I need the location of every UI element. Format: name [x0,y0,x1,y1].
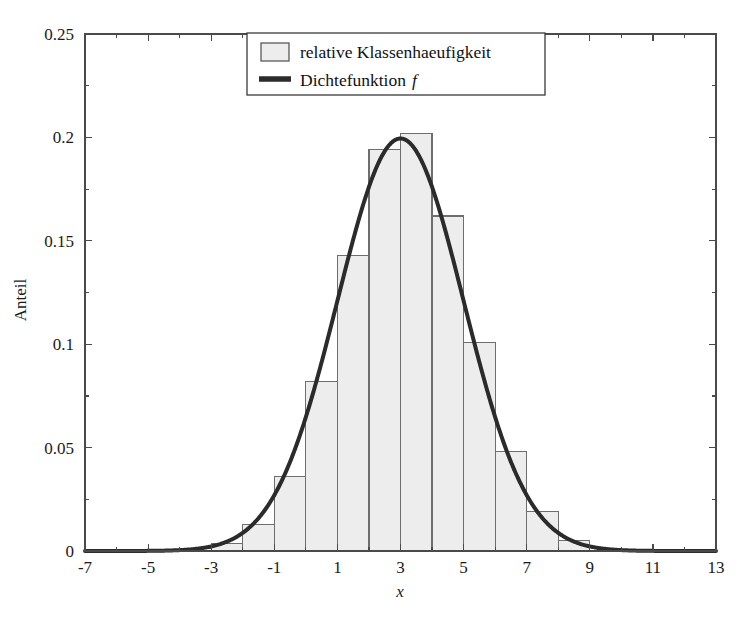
x-tick-label: 3 [396,558,405,577]
y-tick-label: 0.1 [53,335,74,354]
chart-legend: relative Klassenhaeufigkeit Dichtefunkti… [247,33,545,95]
y-tick-label: 0.2 [53,128,74,147]
histogram-bar [464,342,496,551]
y-axis-title: Anteil [11,278,30,321]
x-tick-label: 7 [522,558,531,577]
y-tick-label: 0.15 [44,232,74,251]
y-tick-label: 0.05 [44,439,74,458]
x-tick-label: 5 [459,558,468,577]
legend-label-density: Dichtefunktionf [300,70,419,90]
x-tick-label: 1 [333,558,342,577]
x-tick-label: -5 [141,558,155,577]
legend-label-histogram: relative Klassenhaeufigkeit [300,42,491,62]
histogram-bar [337,255,369,551]
x-tick-label: 11 [645,558,661,577]
x-tick-label: -1 [267,558,281,577]
y-tick-label: 0 [66,542,75,561]
histogram-bar [432,216,464,551]
x-tick-label: -3 [204,558,218,577]
histogram-density-chart: -7-5-3-1135791113 00.050.10.150.20.25 x … [0,0,748,622]
histogram-bar [401,133,433,551]
x-tick-label: -7 [78,558,93,577]
legend-swatch-icon [261,43,289,61]
x-tick-label: 13 [708,558,725,577]
x-axis-title: x [395,582,404,601]
histogram-bar [369,150,401,551]
y-tick-label: 0.25 [44,25,74,44]
x-tick-label: 9 [586,558,595,577]
figure-container: -7-5-3-1135791113 00.050.10.150.20.25 x … [0,0,748,622]
